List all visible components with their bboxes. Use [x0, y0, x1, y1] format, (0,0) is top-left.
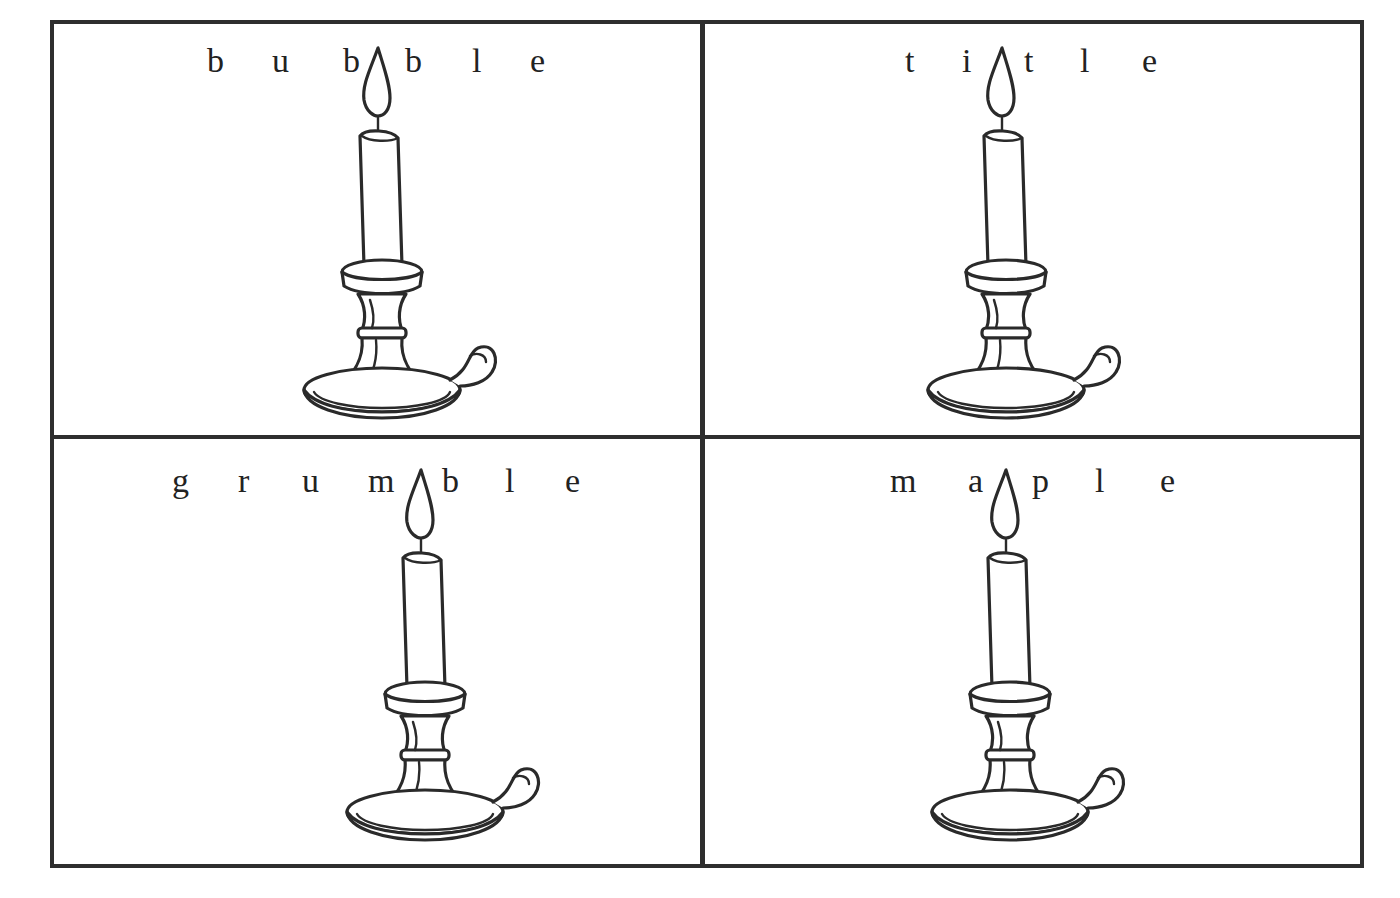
horizontal-divider: [50, 435, 1364, 439]
candle-icon: [300, 40, 500, 420]
letter: b: [207, 42, 224, 80]
candle-illustration: [928, 462, 1128, 846]
letter: m: [890, 462, 916, 500]
outer-frame: [50, 20, 1364, 868]
candle-illustration: [300, 40, 500, 424]
syllable-candle-worksheet: bubble title: [0, 0, 1400, 898]
candle-illustration: [343, 462, 543, 846]
candle-icon: [924, 40, 1124, 420]
candle-icon: [343, 462, 543, 842]
letter: e: [1160, 462, 1175, 500]
vertical-divider: [700, 20, 705, 868]
candle-illustration: [924, 40, 1124, 424]
letter: e: [530, 42, 545, 80]
letter: e: [565, 462, 580, 500]
letter: e: [1142, 42, 1157, 80]
letter: r: [238, 462, 249, 500]
letter: u: [272, 42, 289, 80]
candle-icon: [928, 462, 1128, 842]
letter: t: [905, 42, 914, 80]
letter: g: [172, 462, 189, 500]
letter: u: [302, 462, 319, 500]
